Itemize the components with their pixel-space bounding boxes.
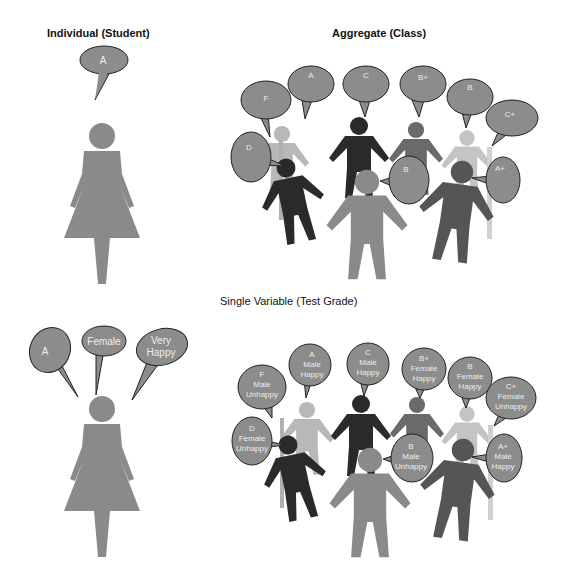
speech-bubble-bplus: B+ (400, 66, 446, 117)
bubble-text: Male (303, 360, 321, 369)
individual-top-group: A (64, 46, 140, 284)
speech-bubble: A (80, 46, 128, 100)
bubble-text: Female (457, 372, 484, 381)
bubble-text: Happy (491, 462, 514, 471)
bubble-text: A+ (495, 164, 505, 173)
speech-bubble-cplus-female-unhappy: C+ Female Unhappy (486, 377, 536, 426)
speech-bubble-b-male-unhappy: B Male Unhappy (383, 434, 433, 482)
bubble-text: Unhappy (236, 444, 268, 453)
bubble-text: B+ (418, 73, 428, 82)
bubble-text: B+ (419, 354, 429, 363)
bubble-text: C+ (506, 382, 517, 391)
bubble-text: Male (402, 452, 420, 461)
bubble-text: C (363, 71, 369, 80)
bubble-text: Female (498, 392, 525, 401)
bubble-text: A+ (498, 442, 508, 451)
bubble-text: B (408, 442, 413, 451)
bubble-text: Female (239, 434, 266, 443)
woman-figure-icon (64, 396, 140, 557)
bubble-text: D (249, 424, 255, 433)
bubble-text: Happy (458, 382, 481, 391)
bubble-text: A (308, 71, 314, 80)
speech-bubble-bplus-female-happy: B+ Female Happy (402, 348, 446, 398)
aggregate-top-group: F A C B+ B C+ D (231, 66, 538, 279)
speech-bubble-c-male-happy: C Male Happy (347, 343, 389, 396)
bubble-text: B (403, 165, 408, 174)
bubble-text: C+ (505, 110, 516, 119)
bubble-text: B (467, 362, 472, 371)
bubble-text: Male (494, 452, 512, 461)
bubble-text: F (264, 94, 269, 103)
bubble-text: Male (253, 380, 271, 389)
bubble-text: Unhappy (246, 390, 278, 399)
speech-bubble-a: A (22, 321, 78, 397)
bubble-text: C (365, 348, 371, 357)
speech-bubble-b-female-happy: B Female Happy (448, 357, 492, 408)
speech-bubble-b-front: B (380, 156, 429, 204)
bubble-text: D (246, 143, 252, 152)
speech-bubble-very-happy: Very Happy (132, 323, 192, 400)
bubble-text: Happy (147, 347, 176, 358)
woman-figure-icon (64, 123, 140, 284)
bubble-text: Unhappy (395, 462, 427, 471)
bubble-text: A (42, 346, 49, 357)
bubble-text: Male (359, 358, 377, 367)
bubble-text: B (467, 83, 472, 92)
speech-bubble-cplus: C+ (486, 100, 538, 146)
diagram-canvas: A A Female Very Happy (0, 0, 566, 581)
speech-bubble-d-female-unhappy: D Female Unhappy (232, 417, 285, 465)
bubble-text: Happy (300, 370, 323, 379)
bubble-text: Very (151, 335, 171, 346)
speech-bubble-a: A (288, 66, 334, 119)
bubble-text: Unhappy (495, 402, 527, 411)
bubble-text: A (100, 55, 107, 66)
speech-bubble-female: Female (82, 326, 126, 395)
individual-bottom-group: A Female Very Happy (22, 321, 192, 557)
bubble-text: F (260, 370, 265, 379)
bubble-text: Happy (412, 374, 435, 383)
speech-bubble-c: C (343, 66, 389, 117)
speech-bubble-a-male-happy: A Male Happy (289, 344, 331, 398)
bubble-text: Female (411, 364, 438, 373)
aggregate-bottom-group: F Male Unhappy A Male Happy C Male Happy… (232, 343, 536, 557)
bubble-text: Female (87, 336, 121, 347)
speech-bubble-f-male-unhappy: F Male Unhappy (238, 365, 286, 418)
bubble-text: Happy (356, 368, 379, 377)
bubble-text: A (309, 350, 315, 359)
